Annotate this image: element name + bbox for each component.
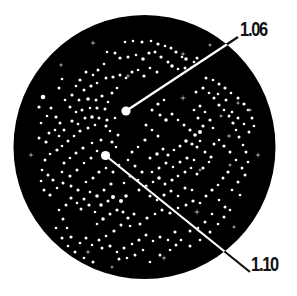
star <box>131 71 134 74</box>
star <box>95 99 98 102</box>
star <box>124 41 127 44</box>
star <box>242 144 245 147</box>
star <box>139 223 142 226</box>
star <box>138 189 141 192</box>
star <box>58 135 61 138</box>
star <box>123 182 126 185</box>
star <box>167 61 170 64</box>
star <box>37 105 40 108</box>
star <box>64 99 67 102</box>
star <box>99 203 103 207</box>
star <box>111 75 114 78</box>
star <box>217 103 220 106</box>
star <box>140 170 143 173</box>
star <box>92 261 95 264</box>
star <box>235 129 238 132</box>
star <box>242 102 245 105</box>
star <box>98 117 101 120</box>
star <box>170 190 173 193</box>
star <box>188 128 191 131</box>
star <box>92 74 95 77</box>
star <box>199 105 202 108</box>
star <box>92 177 95 180</box>
star <box>199 239 202 242</box>
star <box>83 162 86 165</box>
star <box>96 150 99 153</box>
star <box>43 189 46 192</box>
star <box>239 194 242 197</box>
star <box>78 78 81 81</box>
star <box>159 114 162 117</box>
star <box>199 140 202 143</box>
star <box>224 206 227 209</box>
star <box>58 209 61 212</box>
star <box>165 162 168 165</box>
star <box>105 235 108 238</box>
star <box>104 108 107 111</box>
star <box>185 204 188 207</box>
star <box>190 142 193 145</box>
star <box>159 236 162 239</box>
star <box>54 129 57 132</box>
star <box>142 74 145 77</box>
star <box>183 124 186 127</box>
star <box>159 254 162 257</box>
star <box>90 157 93 160</box>
star <box>179 145 182 148</box>
star <box>48 193 51 196</box>
star <box>243 123 246 126</box>
star <box>248 131 251 134</box>
star <box>105 125 108 128</box>
star <box>143 138 146 141</box>
star <box>100 94 103 97</box>
star <box>81 146 84 149</box>
star <box>217 93 220 96</box>
star <box>185 156 188 159</box>
star <box>193 159 196 162</box>
star <box>199 202 202 205</box>
star <box>62 218 65 221</box>
star <box>151 129 154 132</box>
star <box>95 106 98 109</box>
star <box>116 87 119 90</box>
star <box>177 119 180 122</box>
star <box>117 134 120 137</box>
star <box>97 170 100 173</box>
star <box>151 171 154 174</box>
star <box>208 161 211 164</box>
star <box>77 123 80 126</box>
star <box>204 151 207 154</box>
star <box>68 174 71 177</box>
star <box>229 209 232 212</box>
star <box>47 174 50 177</box>
star <box>164 118 168 122</box>
star <box>109 182 112 185</box>
star <box>40 180 43 183</box>
star <box>137 69 140 72</box>
star <box>193 133 197 137</box>
star <box>48 132 51 135</box>
star <box>184 67 187 70</box>
star <box>59 122 62 125</box>
star <box>95 194 99 198</box>
star <box>107 200 110 203</box>
star <box>222 177 225 180</box>
star <box>208 118 211 121</box>
star <box>154 51 157 54</box>
star <box>212 79 215 82</box>
star <box>134 165 137 168</box>
star <box>184 57 188 61</box>
star <box>147 51 150 54</box>
star <box>163 99 166 102</box>
star <box>167 239 170 242</box>
star <box>230 92 233 95</box>
star <box>101 247 104 250</box>
star <box>231 111 234 114</box>
star <box>137 146 140 149</box>
star <box>168 211 171 214</box>
star <box>55 148 58 151</box>
star <box>170 178 173 181</box>
star <box>85 237 88 240</box>
star <box>161 209 164 212</box>
star <box>223 216 226 219</box>
